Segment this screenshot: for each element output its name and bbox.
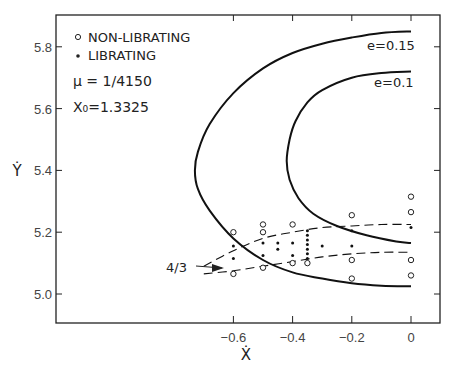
- librating-point: [276, 242, 279, 245]
- non-librating-point: [349, 257, 354, 262]
- librating-point: [306, 238, 309, 241]
- x-tick-label: −0.2: [339, 330, 365, 345]
- resonance-chart: −0.6−0.4−0.20 5.05.25.45.65.8 Ẋ Ẏ NON-LI…: [0, 0, 453, 376]
- librating-point: [306, 248, 309, 251]
- x-tick-label: −0.6: [221, 330, 247, 345]
- x-tick-label: −0.4: [280, 330, 306, 345]
- x-axis-tick-labels: −0.6−0.4−0.20: [221, 330, 415, 345]
- curves: [195, 31, 411, 286]
- librating-point: [232, 257, 235, 260]
- x-tick-label: 0: [407, 330, 414, 345]
- non-librating-point: [290, 260, 295, 265]
- librating-point: [291, 254, 294, 257]
- open-circle-marker-icon: [75, 34, 80, 39]
- librating-point: [232, 245, 235, 248]
- non-librating-point: [290, 222, 295, 227]
- librating-point: [321, 245, 324, 248]
- mu-parameter: μ = 1/4150: [73, 73, 152, 89]
- librating-point: [306, 229, 309, 232]
- y-tick-label: 5.8: [34, 40, 52, 55]
- eccentricity-curve: [287, 72, 411, 244]
- non-librating-point: [408, 273, 413, 278]
- y-tick-label: 5.2: [34, 225, 52, 240]
- librating-point: [350, 229, 353, 232]
- non-librating-point: [349, 213, 354, 218]
- librating-point: [276, 248, 279, 251]
- y-tick-label: 5.4: [34, 163, 52, 178]
- librating-point: [306, 257, 309, 260]
- non-librating-point: [231, 230, 236, 235]
- librating-point: [410, 226, 413, 229]
- curve-label-e01: e=0.1: [374, 75, 414, 90]
- librating-point: [262, 242, 265, 245]
- legend-non-librating: NON-LIBRATING: [88, 30, 190, 45]
- filled-dot-marker-icon: [76, 54, 80, 58]
- resonance-label-4-3: 4/3: [166, 260, 187, 275]
- non-librating-point: [408, 209, 413, 214]
- data-points: [231, 194, 414, 281]
- non-librating-point: [260, 222, 265, 227]
- legend-librating: LIBRATING: [88, 48, 156, 63]
- librating-point: [306, 243, 309, 246]
- y-axis-tick-labels: 5.05.25.45.65.8: [34, 40, 52, 302]
- y-axis-label: Ẏ: [11, 161, 22, 180]
- librating-point: [306, 252, 309, 255]
- x0-parameter: X₀=1.3325: [73, 99, 149, 115]
- non-librating-point: [260, 265, 265, 270]
- eccentricity-curve: [195, 31, 411, 286]
- x-axis-label: Ẋ: [241, 345, 251, 364]
- non-librating-point: [305, 260, 310, 265]
- non-librating-point: [408, 257, 413, 262]
- arrow-icon: [196, 264, 224, 272]
- non-librating-point: [408, 194, 413, 199]
- non-librating-point: [231, 271, 236, 276]
- curve-label-e015: e=0.15: [367, 38, 415, 53]
- non-librating-point: [349, 276, 354, 281]
- non-librating-point: [260, 230, 265, 235]
- legend: NON-LIBRATING LIBRATING: [75, 30, 190, 63]
- librating-point: [350, 245, 353, 248]
- librating-point: [291, 242, 294, 245]
- librating-point: [306, 234, 309, 237]
- librating-point: [262, 254, 265, 257]
- y-tick-label: 5.0: [34, 287, 52, 302]
- y-tick-label: 5.6: [34, 102, 52, 117]
